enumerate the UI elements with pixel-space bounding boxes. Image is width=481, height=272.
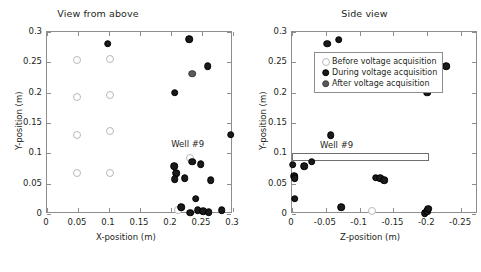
data-point-during bbox=[177, 204, 185, 212]
panel-right-title: Side view bbox=[244, 8, 481, 19]
x-tick-label: 0.25 bbox=[192, 217, 211, 227]
x-tick-label: 0.15 bbox=[130, 217, 149, 227]
data-point-during bbox=[327, 131, 335, 139]
x-tick-top bbox=[202, 32, 203, 36]
data-point-during bbox=[300, 162, 308, 170]
panel-side-view: Side view Y-position (m) Z-position (m) … bbox=[240, 0, 481, 272]
y-tick-right bbox=[227, 62, 231, 63]
x-tick-label: -0.15 bbox=[381, 217, 403, 227]
y-tick bbox=[47, 153, 51, 154]
data-point-before bbox=[73, 169, 81, 177]
legend-item-label: Before voltage acquisition bbox=[332, 56, 437, 67]
plot-area-view-from-above: Well #9 bbox=[46, 31, 232, 213]
y-tick-right bbox=[227, 184, 231, 185]
y-tick bbox=[47, 184, 51, 185]
y-tick-label: 0.2 bbox=[12, 87, 42, 97]
panel-right-x-axis-label: Z-position (m) bbox=[340, 232, 400, 242]
y-tick-label: 0.1 bbox=[12, 147, 42, 157]
legend-item: Before voltage acquisition bbox=[319, 56, 437, 67]
data-point-during bbox=[338, 204, 346, 212]
figure-container: View from above Y-position (m) X-positio… bbox=[0, 0, 481, 272]
x-tick-top bbox=[292, 32, 293, 36]
data-point-during bbox=[335, 36, 343, 44]
x-tick-top bbox=[47, 32, 48, 36]
y-tick-right bbox=[472, 184, 476, 185]
y-tick-label: 0.3 bbox=[12, 26, 42, 36]
x-tick-top bbox=[171, 32, 172, 36]
legend-marker-icon bbox=[319, 67, 332, 78]
annotation-well-label: Well #9 bbox=[320, 140, 353, 150]
y-tick bbox=[292, 93, 296, 94]
data-point-before bbox=[106, 169, 114, 177]
y-tick-label: 0.15 bbox=[257, 117, 287, 127]
x-tick-label: 0 bbox=[43, 217, 48, 227]
legend: Before voltage acquisitionDuring voltage… bbox=[314, 52, 443, 93]
x-tick bbox=[292, 208, 293, 212]
x-tick-label: -0.25 bbox=[449, 217, 471, 227]
legend-item: During voltage acquisition bbox=[319, 67, 437, 78]
x-tick-label: 0.2 bbox=[163, 217, 177, 227]
x-tick-top bbox=[78, 32, 79, 36]
x-tick bbox=[47, 208, 48, 212]
x-tick bbox=[171, 208, 172, 212]
data-point-during bbox=[104, 40, 112, 48]
x-tick-label: -0.2 bbox=[418, 217, 435, 227]
y-tick-right bbox=[472, 214, 476, 215]
data-point-before bbox=[73, 56, 81, 64]
y-tick-label: 0 bbox=[257, 208, 287, 218]
x-tick-label: -0.1 bbox=[350, 217, 367, 227]
legend-marker-icon bbox=[319, 56, 332, 67]
data-point-during bbox=[188, 158, 196, 166]
legend-item: After voltage acquisition bbox=[319, 78, 437, 89]
data-point-during bbox=[192, 195, 200, 203]
x-tick-top bbox=[461, 32, 462, 36]
y-tick-right bbox=[227, 153, 231, 154]
x-tick-top bbox=[326, 32, 327, 36]
data-point-during bbox=[308, 158, 316, 166]
y-tick-label: 0.25 bbox=[12, 56, 42, 66]
data-point-during bbox=[171, 89, 179, 97]
y-tick-right bbox=[227, 93, 231, 94]
y-tick bbox=[292, 123, 296, 124]
y-tick bbox=[47, 123, 51, 124]
x-tick-label: 0.05 bbox=[68, 217, 87, 227]
y-tick-label: 0.2 bbox=[257, 87, 287, 97]
data-point-before bbox=[106, 127, 114, 135]
data-point-before bbox=[73, 93, 81, 101]
y-tick bbox=[47, 93, 51, 94]
y-tick-right bbox=[472, 32, 476, 33]
y-tick-right bbox=[472, 93, 476, 94]
data-point-during bbox=[204, 62, 212, 70]
x-tick bbox=[109, 208, 110, 212]
x-tick bbox=[326, 208, 327, 212]
x-tick-label: 0.1 bbox=[101, 217, 115, 227]
panel-view-from-above: View from above Y-position (m) X-positio… bbox=[0, 0, 240, 272]
x-tick-top bbox=[427, 32, 428, 36]
legend-marker-icon bbox=[319, 78, 332, 89]
y-tick-label: 0.05 bbox=[257, 178, 287, 188]
data-point-during bbox=[424, 205, 432, 213]
y-tick-label: 0.05 bbox=[12, 178, 42, 188]
x-tick bbox=[360, 208, 361, 212]
y-tick-right bbox=[472, 123, 476, 124]
data-point-after bbox=[188, 70, 196, 78]
y-tick bbox=[292, 214, 296, 215]
data-point-during bbox=[289, 161, 297, 169]
data-point-during bbox=[207, 176, 215, 184]
x-tick bbox=[233, 208, 234, 212]
x-tick bbox=[393, 208, 394, 212]
y-tick bbox=[292, 62, 296, 63]
y-tick-label: 0.3 bbox=[257, 26, 287, 36]
x-tick-top bbox=[109, 32, 110, 36]
x-tick bbox=[461, 208, 462, 212]
data-point-during bbox=[380, 176, 388, 184]
x-tick-label: 0 bbox=[288, 217, 293, 227]
y-tick-right bbox=[227, 214, 231, 215]
data-point-during bbox=[291, 195, 299, 203]
data-point-during bbox=[442, 62, 450, 70]
data-point-before bbox=[73, 131, 81, 139]
data-point-during bbox=[323, 40, 331, 48]
x-tick-top bbox=[140, 32, 141, 36]
y-tick-right bbox=[472, 153, 476, 154]
x-tick-top bbox=[393, 32, 394, 36]
